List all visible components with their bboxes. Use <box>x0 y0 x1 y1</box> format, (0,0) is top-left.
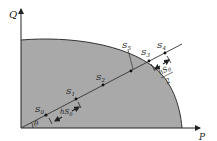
p-axis-label: P <box>198 132 206 141</box>
point-s4 <box>164 52 167 55</box>
half-step-label: hS0 <box>157 63 173 77</box>
label-s4: S4 <box>157 41 166 51</box>
half-step-arrow-right <box>163 60 169 64</box>
point-s0 <box>44 113 47 116</box>
stability-region-diagram: Q P θ hS0 hS0 2 S0 S1 S2 S5 S3 S4 <box>0 0 217 141</box>
q-axis-label: Q <box>9 9 17 20</box>
half-step-tick-right <box>167 56 171 63</box>
label-s5: S5 <box>122 41 131 51</box>
point-s1 <box>75 98 78 101</box>
point-s3 <box>148 60 151 63</box>
label-s3: S3 <box>141 48 150 58</box>
point-s2 <box>102 84 105 87</box>
point-s5 <box>130 70 133 73</box>
